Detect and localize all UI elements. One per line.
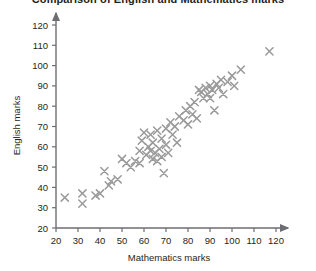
y-tick-label: 110 xyxy=(33,40,48,51)
x-tick-label: 30 xyxy=(73,235,84,246)
x-tick-label: 50 xyxy=(117,235,128,246)
data-point xyxy=(184,121,191,128)
x-tick-label: 60 xyxy=(139,235,150,246)
y-axis-label: English marks xyxy=(11,86,22,166)
data-point xyxy=(101,168,108,175)
data-point xyxy=(79,200,86,207)
x-tick-label: 90 xyxy=(205,235,216,246)
y-tick-label: 120 xyxy=(32,20,48,31)
data-point xyxy=(127,164,134,171)
data-point xyxy=(173,139,180,146)
data-point xyxy=(160,170,167,177)
data-point xyxy=(61,194,68,201)
y-tick-label: 50 xyxy=(37,162,48,173)
data-point xyxy=(220,90,227,97)
y-tick-label: 20 xyxy=(37,223,48,234)
data-point xyxy=(211,107,218,114)
data-point xyxy=(169,131,176,138)
data-point xyxy=(171,123,178,130)
x-tick-label: 120 xyxy=(268,235,284,246)
data-point xyxy=(266,48,273,55)
x-tick-label: 70 xyxy=(161,235,172,246)
y-tick-label: 70 xyxy=(37,121,48,132)
data-point xyxy=(140,129,147,136)
x-tick-label: 100 xyxy=(224,235,240,246)
data-point xyxy=(158,135,165,142)
data-point xyxy=(79,190,86,197)
y-tick-label: 90 xyxy=(37,80,48,91)
x-tick-label: 80 xyxy=(183,235,194,246)
data-point xyxy=(191,99,198,106)
y-tick-label: 100 xyxy=(32,60,48,71)
y-tick-label: 80 xyxy=(37,101,48,112)
x-tick-label: 40 xyxy=(95,235,106,246)
x-axis-label: Mathematics marks xyxy=(56,252,282,263)
plot-area: 2030405060708090100110120203040506070809… xyxy=(0,0,316,271)
scatter-chart-figure: Comparison of English and Mathematics ma… xyxy=(0,0,316,271)
data-point xyxy=(114,176,121,183)
y-tick-label: 30 xyxy=(37,202,48,213)
y-tick-label: 40 xyxy=(37,182,48,193)
data-point xyxy=(193,115,200,122)
x-tick-label: 20 xyxy=(51,235,62,246)
data-point xyxy=(217,76,224,83)
x-tick-label: 110 xyxy=(246,235,261,246)
data-point xyxy=(228,72,235,79)
y-tick-label: 60 xyxy=(37,141,48,152)
data-point xyxy=(237,66,244,73)
